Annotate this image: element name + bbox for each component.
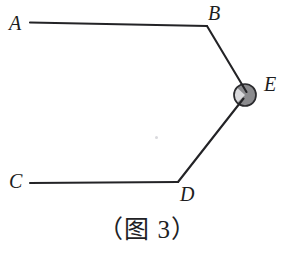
segment-ab bbox=[30, 23, 207, 27]
vertex-label-e: E bbox=[264, 74, 276, 94]
vertex-label-a: A bbox=[9, 13, 21, 33]
segment-de bbox=[178, 99, 244, 183]
vertex-label-c: C bbox=[9, 171, 22, 191]
segment-be bbox=[207, 26, 247, 92]
figure-panel: A B C D E （图 3） bbox=[0, 0, 295, 258]
segment-cd bbox=[30, 182, 178, 183]
node-marker-e bbox=[214, 74, 256, 118]
vertex-label-d: D bbox=[180, 184, 194, 204]
scan-speck bbox=[155, 136, 158, 139]
figure-caption: （图 3） bbox=[0, 214, 295, 245]
vertex-label-b: B bbox=[208, 3, 220, 23]
